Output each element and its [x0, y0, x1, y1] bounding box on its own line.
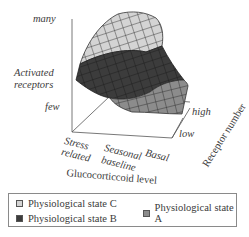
- z-tick-many: many: [33, 13, 56, 24]
- legend-item-state-b: Physiological state B: [16, 213, 117, 224]
- y-tick-high: high: [192, 106, 211, 117]
- legend-swatch-c: [16, 200, 23, 207]
- legend-item-state-c: Physiological state C: [16, 198, 117, 209]
- legend: Physiological state C Physiological stat…: [8, 193, 237, 227]
- z-axis-title-line2: receptors: [14, 79, 53, 90]
- z-axis-title-line1: Activated: [14, 67, 54, 78]
- z-tick-few: few: [45, 101, 60, 112]
- legend-swatch-a: [143, 210, 150, 217]
- legend-label-b: Physiological state B: [28, 213, 117, 224]
- legend-item-state-a: Physiological state A: [143, 202, 236, 224]
- legend-label-c: Physiological state C: [28, 198, 117, 209]
- y-tick-low: low: [179, 128, 194, 139]
- legend-label-a: Physiological state A: [155, 202, 236, 224]
- legend-swatch-b: [16, 215, 23, 222]
